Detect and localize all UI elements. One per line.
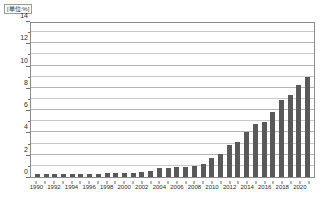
x-axis-tick-mark — [80, 181, 81, 184]
bar — [201, 164, 206, 177]
x-axis-tick-mark — [238, 181, 239, 184]
bar — [209, 158, 214, 178]
bar — [227, 145, 232, 177]
bar-slot — [129, 23, 138, 177]
y-axis-tick-label: 2 — [2, 145, 28, 152]
x-axis-tick-mark — [132, 181, 133, 184]
y-axis-tick-label: 4 — [2, 123, 28, 130]
bar-slot — [190, 23, 199, 177]
bar-slot — [181, 23, 190, 177]
bar-slot — [33, 23, 42, 177]
x-axis-tick-mark — [150, 181, 151, 184]
bar — [52, 174, 57, 177]
bar — [192, 166, 197, 177]
bar — [305, 77, 310, 177]
bar-slot — [286, 23, 295, 177]
x-axis-slot: 1992 — [50, 181, 59, 195]
x-axis-tick-mark — [168, 181, 169, 184]
x-axis-tick-mark — [291, 181, 292, 184]
x-axis-tick-mark — [220, 181, 221, 184]
bar-slot — [138, 23, 147, 177]
bar-slot — [251, 23, 260, 177]
bar-series — [31, 23, 314, 177]
x-axis-labels: 1990199219941996199820002002200420062008… — [30, 181, 315, 195]
x-axis-slot: 2010 — [208, 181, 217, 195]
bar-slot — [85, 23, 94, 177]
bar — [157, 168, 162, 177]
bar — [174, 167, 179, 177]
bar-slot — [260, 23, 269, 177]
bar-slot — [77, 23, 86, 177]
y-axis-tick-label: 10 — [2, 56, 28, 63]
bar — [113, 173, 118, 177]
x-axis-slot: 2014 — [243, 181, 252, 195]
bar-slot — [68, 23, 77, 177]
x-axis-tick-mark — [273, 181, 274, 184]
bar — [61, 174, 66, 177]
bar-slot — [207, 23, 216, 177]
x-axis-slot: 2016 — [260, 181, 269, 195]
bar — [166, 168, 171, 177]
y-axis-tick-label: 6 — [2, 101, 28, 108]
bar — [235, 142, 240, 177]
bar-slot — [234, 23, 243, 177]
bar — [87, 174, 92, 177]
x-axis-tick-mark — [115, 181, 116, 184]
x-axis-slot: 1994 — [67, 181, 76, 195]
bar-slot — [111, 23, 120, 177]
bar-slot — [146, 23, 155, 177]
bar — [253, 124, 258, 177]
bar — [279, 100, 284, 177]
bar-slot — [242, 23, 251, 177]
x-axis-tick-mark — [308, 181, 309, 184]
bar — [296, 85, 301, 177]
y-axis-tick-label: 8 — [2, 78, 28, 85]
bar-slot — [199, 23, 208, 177]
bar-slot — [277, 23, 286, 177]
bar — [122, 173, 127, 177]
y-axis-tick-label: 0 — [2, 168, 28, 175]
x-axis-slot: 2008 — [190, 181, 199, 195]
bar — [96, 174, 101, 177]
x-axis-slot — [304, 181, 313, 195]
y-axis-tick-label: 14 — [2, 12, 28, 19]
x-axis-tick-mark — [45, 181, 46, 184]
x-axis-tick-mark — [203, 181, 204, 184]
y-axis-labels: 02468101214 — [0, 22, 28, 178]
bar-slot — [120, 23, 129, 177]
bar — [148, 171, 153, 177]
x-axis-tick-mark — [185, 181, 186, 184]
x-axis-slot: 1990 — [32, 181, 41, 195]
bar — [131, 173, 136, 177]
x-axis-slot: 2000 — [120, 181, 129, 195]
bar-slot — [216, 23, 225, 177]
bar — [70, 174, 75, 177]
bar — [78, 174, 83, 177]
bar-slot — [155, 23, 164, 177]
x-axis-slot: 1998 — [102, 181, 111, 195]
bar-slot — [164, 23, 173, 177]
x-axis-slot: 2004 — [155, 181, 164, 195]
bar — [288, 95, 293, 177]
bar-slot — [42, 23, 51, 177]
x-axis-slot: 2020 — [295, 181, 304, 195]
x-axis-slot: 1996 — [85, 181, 94, 195]
bar-slot — [50, 23, 59, 177]
chart-figure: [単位:%] 02468101214 199019921994199619982… — [0, 0, 321, 203]
bar-slot — [303, 23, 312, 177]
bar — [44, 174, 49, 177]
x-axis-tick-mark — [97, 181, 98, 184]
bar — [139, 172, 144, 177]
bar-slot — [295, 23, 304, 177]
bar-slot — [94, 23, 103, 177]
bar-slot — [59, 23, 68, 177]
bar — [244, 132, 249, 177]
x-axis-slot: 2002 — [137, 181, 146, 195]
plot-area — [30, 22, 315, 178]
bar — [218, 154, 223, 177]
bar — [270, 112, 275, 177]
bar — [183, 167, 188, 177]
bar-slot — [103, 23, 112, 177]
y-axis-tick-label: 12 — [2, 34, 28, 41]
bar-slot — [268, 23, 277, 177]
